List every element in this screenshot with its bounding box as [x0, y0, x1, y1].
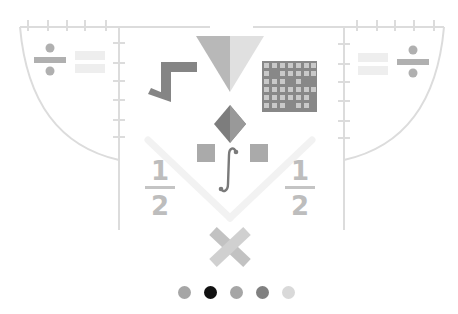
carousel-pagination: [178, 286, 295, 299]
fraction-left-numerator: 1: [145, 158, 175, 184]
right-square-shape: [250, 144, 268, 162]
integral-icon: [219, 148, 239, 191]
fraction-right-denominator: 2: [285, 193, 315, 219]
inverted-triangle-shape: [196, 36, 264, 92]
diamond-shape: [214, 105, 246, 143]
fraction-right-bar: [285, 186, 315, 189]
left-equals-icon: [75, 51, 105, 73]
carousel-dot-2-active[interactable]: [204, 286, 217, 299]
carousel-dot-3[interactable]: [230, 286, 243, 299]
left-square-shape: [197, 144, 215, 162]
carousel-dot-1[interactable]: [178, 286, 191, 299]
fraction-left-denominator: 2: [145, 193, 175, 219]
step-shape: [148, 62, 197, 102]
right-equals-icon: [358, 53, 388, 75]
fraction-right: 1 2: [285, 158, 315, 219]
fraction-left: 1 2: [145, 158, 175, 219]
carousel-dot-4[interactable]: [256, 286, 269, 299]
math-illustration: 1 2 1 2: [0, 0, 458, 314]
left-divide-icon: [34, 44, 66, 76]
right-divide-icon: [397, 46, 429, 78]
fraction-right-numerator: 1: [285, 158, 315, 184]
multiply-icon: [213, 231, 247, 263]
fraction-left-bar: [145, 186, 175, 189]
pixel-grid-shape: [262, 61, 317, 112]
carousel-dot-5[interactable]: [282, 286, 295, 299]
